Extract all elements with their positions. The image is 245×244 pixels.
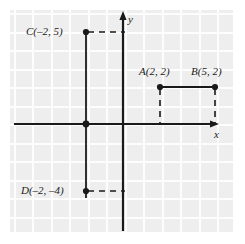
x-axis-label: x <box>214 129 219 140</box>
point-dot-B <box>212 84 218 90</box>
point-dot-A <box>157 84 163 90</box>
point-label-D: D(–2, –4) <box>21 185 64 196</box>
point-label-C: C(–2, 5) <box>26 26 63 37</box>
point-dot-C <box>83 29 89 35</box>
y-axis-label: y <box>128 14 133 25</box>
point-dot-D <box>83 188 89 194</box>
point-dot-axis-crossing <box>83 121 90 128</box>
x-axis-arrowhead <box>210 120 219 127</box>
point-label-A: A(2, 2) <box>139 66 170 77</box>
coordinate-plane-figure: C(–2, 5) D(–2, –4) A(2, 2) B(5, 2) x y <box>0 0 245 244</box>
y-axis-arrowhead <box>119 11 126 20</box>
point-label-B: B(5, 2) <box>191 66 222 77</box>
